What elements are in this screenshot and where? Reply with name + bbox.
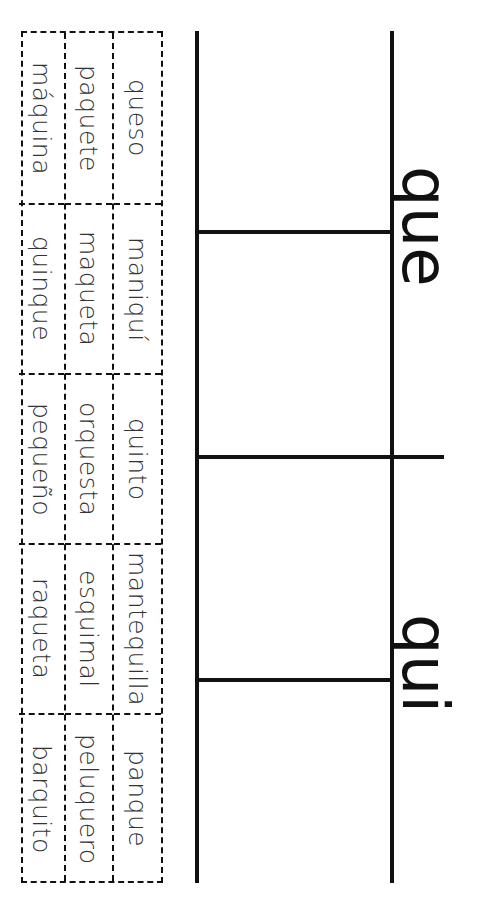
word-sort-worksheet: queso maniquí quinto mantequilla panque …: [0, 0, 502, 900]
card-column-3: máquina quinque pequeño raqueta barquito: [19, 33, 66, 881]
word-card-label: raqueta: [29, 578, 54, 679]
word-card-label: maqueta: [76, 231, 101, 346]
word-card[interactable]: quinto: [114, 373, 161, 543]
word-card[interactable]: mantequilla: [114, 543, 161, 713]
word-card[interactable]: raqueta: [19, 543, 64, 713]
card-column-1: queso maniquí quinto mantequilla panque: [114, 33, 161, 881]
card-column-2: paquete maqueta orquesta esquimal peluqu…: [65, 33, 114, 881]
word-card-label: queso: [125, 79, 150, 157]
word-card-label: pequeño: [29, 403, 54, 516]
heading-que: que: [393, 166, 457, 287]
word-card-label: panque: [125, 750, 150, 847]
word-card[interactable]: panque: [114, 713, 161, 883]
word-card-label: máquina: [29, 62, 54, 175]
heading-qui: qui: [393, 614, 457, 713]
word-card-label: barquito: [29, 745, 54, 854]
column-divider: [197, 455, 444, 459]
word-card[interactable]: pequeño: [19, 373, 64, 543]
word-card[interactable]: maniquí: [114, 203, 161, 373]
word-card[interactable]: quinque: [19, 203, 64, 373]
word-card-label: orquesta: [76, 402, 101, 516]
word-card[interactable]: queso: [114, 33, 161, 203]
word-card-label: mantequilla: [125, 552, 150, 706]
qui-header-divider: [197, 678, 392, 682]
word-card-label: quinque: [29, 236, 54, 341]
word-card-label: paquete: [76, 65, 101, 172]
word-card-grid: queso maniquí quinto mantequilla panque …: [21, 31, 163, 883]
word-card[interactable]: paquete: [65, 33, 112, 203]
word-card-label: peluquero: [76, 734, 101, 865]
word-card[interactable]: barquito: [19, 713, 64, 883]
que-header-divider: [197, 230, 392, 234]
word-card[interactable]: maqueta: [65, 203, 112, 373]
word-card-label: quinto: [125, 418, 150, 501]
word-card[interactable]: esquimal: [65, 543, 112, 713]
word-card[interactable]: orquesta: [65, 373, 112, 543]
word-card[interactable]: peluquero: [65, 713, 112, 883]
word-card[interactable]: máquina: [19, 33, 64, 203]
word-card-label: esquimal: [76, 570, 101, 688]
word-card-label: maniquí: [125, 237, 150, 342]
